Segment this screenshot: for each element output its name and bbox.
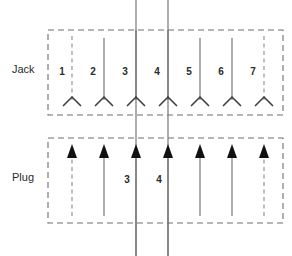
jack-pin-5-number: 5 <box>186 66 192 77</box>
jack-pin-6-number: 6 <box>218 66 224 77</box>
plug-pin-4[interactable]: 4 <box>156 144 173 256</box>
plug-pin-1[interactable] <box>67 144 77 216</box>
bus-line-group <box>136 0 168 256</box>
jack-pin-6[interactable]: 6 <box>218 38 241 106</box>
jack-pin-1-number: 1 <box>59 66 65 77</box>
jack-pin-3[interactable]: 3 <box>122 30 145 106</box>
jack-pin-2-number: 2 <box>90 66 96 77</box>
jack-section: Jack 1 2 3 <box>12 30 283 115</box>
jack-pin-4[interactable]: 4 <box>154 30 177 106</box>
plug-pin-6[interactable] <box>227 144 237 216</box>
plug-pin-2[interactable] <box>99 144 109 216</box>
jack-pin-7[interactable]: 7 <box>250 36 273 106</box>
jack-section-label: Jack <box>12 63 35 75</box>
jack-pin-5[interactable]: 5 <box>186 38 209 106</box>
diagram-canvas: Jack 1 2 3 <box>0 0 292 256</box>
jack-pin-4-number: 4 <box>154 66 160 77</box>
jack-pin-1[interactable]: 1 <box>59 36 81 106</box>
plug-pin-7[interactable] <box>259 144 269 216</box>
plug-pin-2-arrowhead-icon <box>99 144 109 158</box>
plug-pin-6-arrowhead-icon <box>227 144 237 158</box>
jack-pin-2[interactable]: 2 <box>90 38 113 106</box>
plug-pin-3[interactable]: 3 <box>124 144 141 256</box>
connector-diagram: Jack 1 2 3 <box>0 0 292 256</box>
plug-pin-7-arrowhead-icon <box>259 144 269 158</box>
plug-pin-3-number: 3 <box>124 174 130 185</box>
plug-pin-1-arrowhead-icon <box>67 144 77 158</box>
plug-pin-4-arrowhead-icon <box>163 144 173 158</box>
plug-pin-5-arrowhead-icon <box>195 144 205 158</box>
plug-enclosure <box>48 138 283 223</box>
jack-enclosure <box>48 30 283 115</box>
jack-pin-3-number: 3 <box>122 66 128 77</box>
plug-pin-4-number: 4 <box>156 174 162 185</box>
plug-pin-3-arrowhead-icon <box>131 144 141 158</box>
plug-section-label: Plug <box>12 171 34 183</box>
plug-pin-5[interactable] <box>195 144 205 216</box>
plug-section: Plug 3 <box>12 138 283 256</box>
jack-pin-7-number: 7 <box>250 66 256 77</box>
